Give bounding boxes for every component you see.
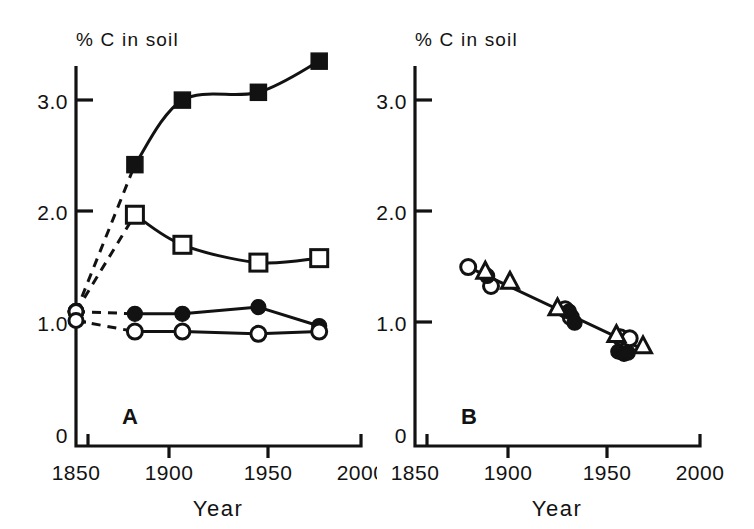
series-line-open-square bbox=[135, 215, 319, 263]
series-line-filled-square bbox=[135, 61, 319, 165]
panel-b-letter: B bbox=[461, 404, 477, 429]
panel-a-ytick-1: 1.0 bbox=[37, 312, 68, 335]
data-point-open-square bbox=[174, 236, 191, 253]
panel-b-x-axis-line bbox=[415, 434, 700, 446]
panel-a-ytick-2: 2.0 bbox=[37, 201, 68, 224]
panel-b-ytick-2: 2.0 bbox=[377, 201, 407, 224]
data-point-open-circle bbox=[251, 326, 266, 341]
panel-b-ytick-0: 0 bbox=[395, 424, 407, 447]
panel-b-axes bbox=[415, 66, 700, 446]
panel-a-axis-title: % C in soil bbox=[76, 29, 179, 50]
panel-b-xtick-1950: 1950 bbox=[583, 461, 632, 484]
panel-b-xtick-1850: 1850 bbox=[391, 461, 440, 484]
panel-a-plot: % C in soil 3.0 2.0 1.0 0 1850 1900 1950 bbox=[0, 0, 377, 529]
data-point-open-square bbox=[126, 206, 143, 223]
panel-b-ytick-1: 1.0 bbox=[377, 312, 407, 335]
data-point-filled-circle bbox=[127, 306, 142, 321]
data-point-open-circle bbox=[312, 324, 327, 339]
panel-a-xtick-1900: 1900 bbox=[145, 461, 194, 484]
data-point-filled-square bbox=[311, 53, 327, 69]
panel-a-x-axis-line bbox=[76, 434, 361, 446]
panel-a-x-ticks bbox=[169, 446, 268, 458]
panel-b-series-layer bbox=[461, 260, 652, 362]
panel-b-axis-title: % C in soil bbox=[415, 29, 518, 50]
panel-a: % C in soil 3.0 2.0 1.0 0 1850 1900 1950 bbox=[0, 0, 377, 529]
dashed-connector-open-square bbox=[76, 215, 135, 312]
panel-b-ytick-3: 3.0 bbox=[377, 90, 407, 113]
panel-a-ytick-0: 0 bbox=[56, 424, 68, 447]
panel-a-xtick-1950: 1950 bbox=[244, 461, 293, 484]
panel-a-letter: A bbox=[122, 404, 138, 429]
data-point-open-circle bbox=[461, 260, 476, 275]
dashed-connector-filled-square bbox=[76, 165, 135, 312]
panel-b-xlabel: Year bbox=[532, 496, 582, 521]
panel-b-xtick-1900: 1900 bbox=[484, 461, 533, 484]
panel-b: % C in soil 3.0 2.0 1.0 0 1850 1900 1950 bbox=[377, 0, 754, 529]
dashed-connector-filled-circle bbox=[76, 312, 135, 314]
panel-a-ytick-3: 3.0 bbox=[37, 90, 68, 113]
data-point-open-triangle bbox=[502, 272, 519, 288]
data-point-filled-circle bbox=[175, 306, 190, 321]
data-point-open-square bbox=[311, 250, 328, 267]
panel-a-xlabel: Year bbox=[193, 496, 243, 521]
data-point-open-triangle bbox=[608, 326, 625, 342]
data-point-filled-circle bbox=[251, 300, 266, 315]
series-line-filled-circle bbox=[135, 307, 319, 326]
panel-b-plot: % C in soil 3.0 2.0 1.0 0 1850 1900 1950 bbox=[377, 0, 754, 529]
data-point-open-triangle bbox=[477, 262, 494, 278]
panel-b-y-ticks bbox=[415, 100, 432, 322]
data-point-filled-square bbox=[174, 92, 190, 108]
panel-a-series-layer bbox=[69, 53, 328, 341]
data-point-open-square bbox=[250, 254, 267, 271]
series-line-open-circle bbox=[135, 332, 319, 334]
data-point-filled-circle bbox=[567, 315, 582, 330]
data-point-filled-square bbox=[127, 157, 143, 173]
panel-b-x-ticks bbox=[508, 446, 607, 458]
panel-a-xtick-1850: 1850 bbox=[52, 461, 101, 484]
data-point-filled-square bbox=[250, 84, 266, 100]
baseline-marker-open-circle bbox=[69, 313, 83, 327]
data-point-open-circle bbox=[127, 324, 142, 339]
panel-b-xtick-2000: 2000 bbox=[676, 461, 725, 484]
data-point-open-circle bbox=[175, 324, 190, 339]
figure-root: % C in soil 3.0 2.0 1.0 0 1850 1900 1950 bbox=[0, 0, 754, 529]
panel-a-xtick-2000: 2000 bbox=[337, 461, 377, 484]
